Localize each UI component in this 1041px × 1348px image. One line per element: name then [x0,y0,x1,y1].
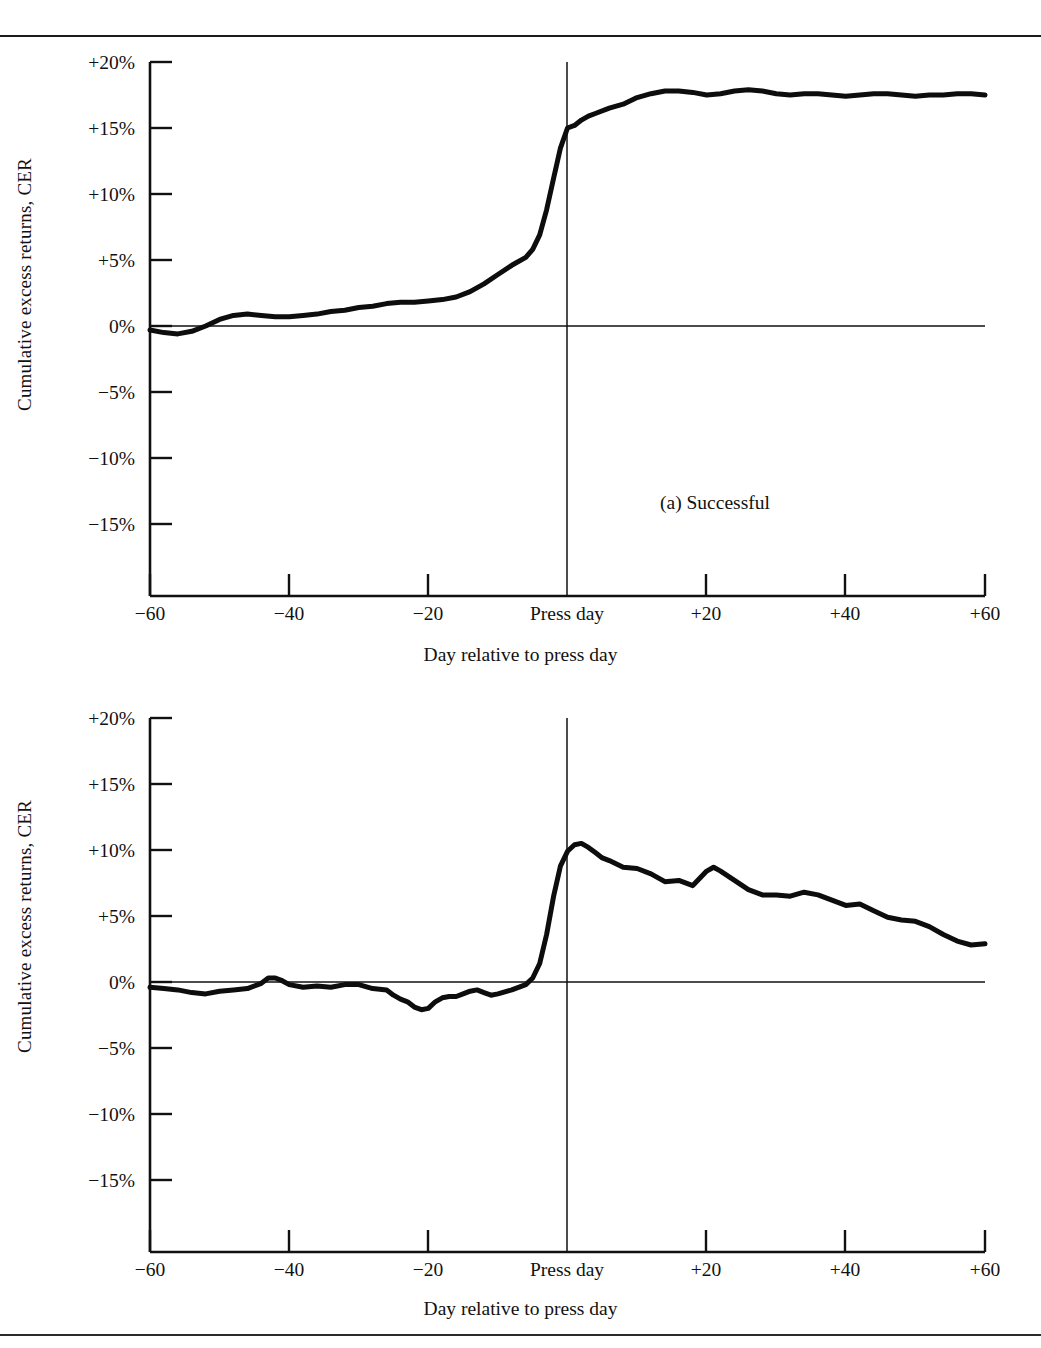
x-tick-label: +60 [970,1259,1001,1281]
chart-panel-a: Cumulative excess returns, CER +20% +15%… [0,40,1041,680]
plot-area-a [0,40,1041,680]
x-tick-label: +40 [830,603,861,625]
x-tick-label: Press day [530,1259,604,1281]
x-tick-label: −60 [135,1259,166,1281]
plot-area-b [0,690,1041,1335]
x-tick-label: +60 [970,603,1001,625]
y-tick-marks [150,718,172,1180]
x-tick-label: −60 [135,603,166,625]
panel-label-a: (a) Successful [660,492,770,514]
x-tick-label: +40 [830,1259,861,1281]
x-tick-label: −40 [274,1259,305,1281]
x-tick-label: −20 [413,603,444,625]
x-axis-title-a: Day relative to press day [0,644,1041,666]
x-tick-label: −20 [413,1259,444,1281]
chart-panel-b: Cumulative excess returns, CER +20% +15%… [0,690,1041,1335]
x-tick-label: +20 [691,1259,722,1281]
x-tick-label: +20 [691,603,722,625]
figure-root: Cumulative excess returns, CER +20% +15%… [0,0,1041,1348]
y-tick-marks [150,62,172,524]
x-tick-label: Press day [530,603,604,625]
figure-top-rule [0,35,1041,37]
x-tick-label: −40 [274,603,305,625]
x-axis-title-b: Day relative to press day [0,1298,1041,1320]
